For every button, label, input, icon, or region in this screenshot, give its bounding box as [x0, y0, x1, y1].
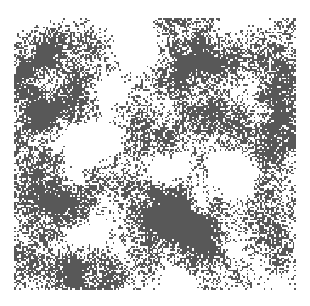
figure-root: Square-lattice site percolation configur… [0, 0, 310, 306]
lattice-canvas [14, 18, 296, 290]
percolation-lattice-plot [14, 18, 296, 290]
